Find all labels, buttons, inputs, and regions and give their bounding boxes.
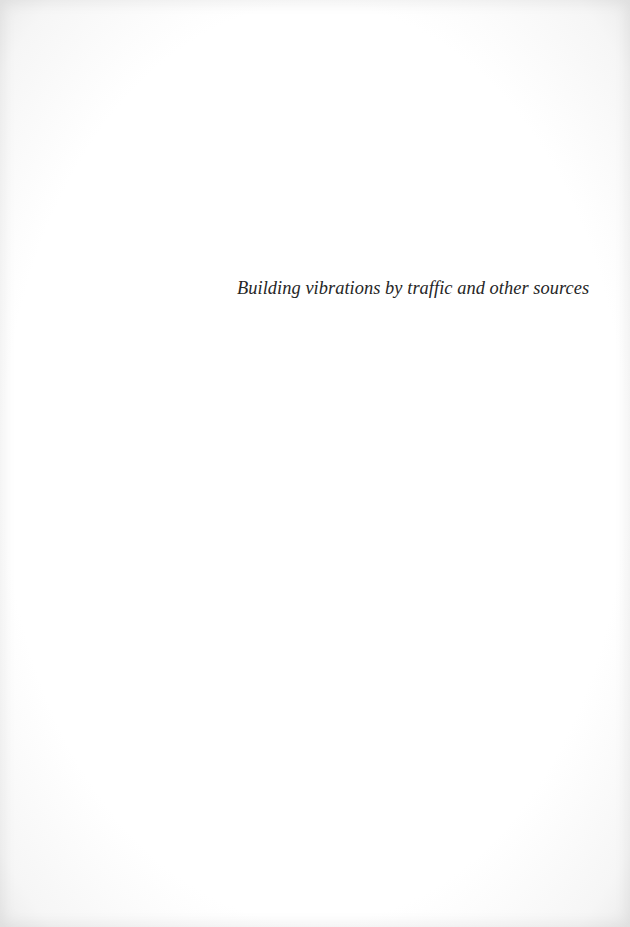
book-page: Building vibrations by traffic and other…: [0, 0, 630, 927]
half-title: Building vibrations by traffic and other…: [237, 277, 589, 299]
